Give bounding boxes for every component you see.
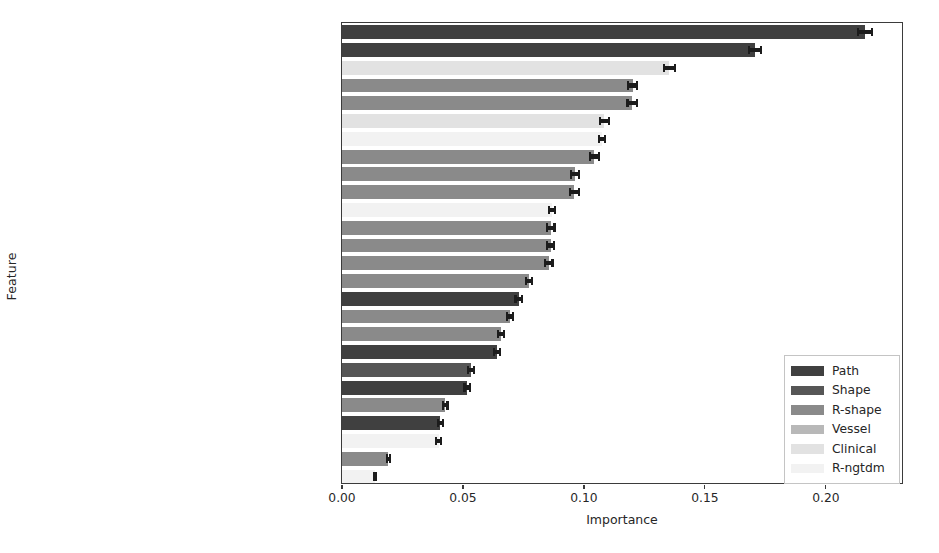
error-bar-cap <box>546 241 548 249</box>
legend-item: R-shape <box>791 400 893 420</box>
legend-label: Shape <box>832 383 871 397</box>
bar-row <box>342 130 902 148</box>
error-bar-cap <box>674 64 676 72</box>
legend-item: Path <box>791 361 893 381</box>
bar-row <box>342 112 902 130</box>
legend-swatch <box>791 464 824 474</box>
error-bar <box>858 30 873 34</box>
legend-swatch <box>791 366 824 376</box>
bar-row <box>342 254 902 272</box>
error-bar-cap <box>493 348 495 356</box>
bar-row <box>342 201 902 219</box>
x-tick-mark <box>825 485 826 489</box>
error-bar-cap <box>857 28 859 36</box>
error-bar-cap <box>386 454 388 462</box>
error-bar-cap <box>514 295 516 303</box>
x-tick-label: 0.10 <box>570 491 597 505</box>
bar <box>342 239 551 253</box>
bar <box>342 132 602 146</box>
bar <box>342 363 471 377</box>
error-bar-cap <box>506 312 508 320</box>
error-bar-cap <box>604 135 606 143</box>
bar <box>342 434 439 448</box>
error-bar-cap <box>442 419 444 427</box>
error-bar-cap <box>548 206 550 214</box>
x-tick-label: 0.05 <box>449 491 476 505</box>
error-bar-cap <box>636 99 638 107</box>
error-bar-cap <box>437 419 439 427</box>
bar-row <box>342 325 902 343</box>
bar <box>342 274 529 288</box>
error-bar-cap <box>546 223 548 231</box>
error-bar-cap <box>435 437 437 445</box>
legend-item: R-ngtdm <box>791 459 893 479</box>
legend-label: Clinical <box>832 442 876 456</box>
legend-swatch <box>791 444 824 454</box>
bar <box>342 61 669 75</box>
bar-row <box>342 165 902 183</box>
error-bar-cap <box>760 46 762 54</box>
error-bar-cap <box>551 259 553 267</box>
error-bar-cap <box>578 188 580 196</box>
bar <box>342 470 375 484</box>
legend: PathShapeR-shapeVesselClinicalR-ngtdm <box>784 355 900 484</box>
bar <box>342 185 574 199</box>
error-bar-cap <box>599 117 601 125</box>
error-bar-cap <box>553 223 555 231</box>
error-bar-cap <box>554 206 556 214</box>
error-bar-cap <box>871 28 873 36</box>
bar-row <box>342 41 902 59</box>
error-bar-cap <box>521 295 523 303</box>
bar <box>342 381 467 395</box>
bar <box>342 345 497 359</box>
error-bar-cap <box>626 99 628 107</box>
bar <box>342 310 510 324</box>
x-tick-label: 0.20 <box>812 491 839 505</box>
error-bar-cap <box>569 188 571 196</box>
error-bar-cap <box>578 170 580 178</box>
bar-row <box>342 236 902 254</box>
legend-item: Vessel <box>791 420 893 440</box>
error-bar-cap <box>440 437 442 445</box>
legend-label: Vessel <box>832 422 871 436</box>
bar <box>342 25 865 39</box>
x-tick-label: 0.00 <box>328 491 355 505</box>
error-bar-cap <box>627 81 629 89</box>
error-bar-cap <box>463 383 465 391</box>
x-axis-label: Importance <box>341 512 903 527</box>
error-bar-cap <box>598 152 600 160</box>
bar <box>342 79 633 93</box>
bar-row <box>342 307 902 325</box>
bar-row <box>342 272 902 290</box>
error-bar-cap <box>467 366 469 374</box>
bar <box>342 256 549 270</box>
error-bar-cap <box>473 366 475 374</box>
legend-label: R-ngtdm <box>832 461 885 475</box>
legend-swatch <box>791 405 824 415</box>
error-bar-cap <box>503 330 505 338</box>
bar <box>342 114 604 128</box>
bar-row <box>342 94 902 112</box>
bar-row <box>342 218 902 236</box>
error-bar-cap <box>446 401 448 409</box>
bar <box>342 327 501 341</box>
legend-label: Path <box>832 364 859 378</box>
bar <box>342 150 594 164</box>
bar-row <box>342 183 902 201</box>
error-bar-cap <box>553 241 555 249</box>
bar <box>342 167 575 181</box>
x-tick-label: 0.15 <box>691 491 718 505</box>
error-bar-cap <box>512 312 514 320</box>
error-bar-cap <box>598 135 600 143</box>
error-bar-cap <box>544 259 546 267</box>
bar <box>342 416 440 430</box>
error-bar-cap <box>570 170 572 178</box>
bar <box>342 452 388 466</box>
bar <box>342 221 551 235</box>
legend-item: Shape <box>791 381 893 401</box>
bar <box>342 96 632 110</box>
bar <box>342 292 519 306</box>
error-bar-cap <box>748 46 750 54</box>
bar-row <box>342 290 902 308</box>
error-bar-cap <box>525 277 527 285</box>
